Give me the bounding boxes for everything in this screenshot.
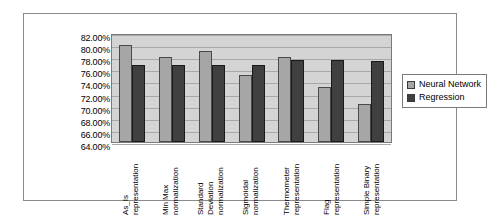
bar-neural-network [159, 57, 172, 142]
legend-label-regression: Regression [419, 93, 465, 102]
bar-regression [172, 65, 185, 143]
y-axis-tick-label: 72.00% [81, 95, 110, 104]
x-axis-label-line: Thermometer [282, 145, 292, 215]
x-axis-label-line: representation [372, 145, 382, 215]
bar-regression [212, 65, 225, 143]
x-axis-label-line: Min Max [161, 145, 171, 215]
y-axis-tick-label: 78.00% [81, 58, 110, 67]
x-axis-tick: Sigmoidalnormalization [231, 145, 271, 217]
bar-groups [112, 35, 391, 142]
chart-legend: Neural Network Regression [402, 74, 487, 108]
x-axis-label-line: Simple Binary [362, 145, 372, 215]
x-axis-label-line: Deviation [206, 145, 216, 215]
bar-regression [331, 60, 344, 142]
bar-group [351, 35, 391, 142]
x-axis-tick-label: Flagrepresentation [322, 145, 342, 215]
bar-neural-network [358, 104, 371, 142]
bar-group [232, 35, 272, 142]
x-axis-tick: As_Isrepresentation [111, 145, 151, 217]
bar-neural-network [199, 51, 212, 142]
legend-item: Regression [407, 91, 481, 104]
x-axis-label-line: Flag [322, 145, 332, 215]
x-axis-tick-label: StandardDeviationnormalization [196, 145, 226, 215]
y-axis-tick-label: 64.00% [81, 143, 110, 152]
x-axis-label-line: normalization [216, 145, 226, 215]
legend-swatch-regression [407, 94, 415, 102]
x-axis-label-line: Standard [196, 145, 206, 215]
x-axis: As_IsrepresentationMin MaxnormalizationS… [111, 145, 392, 217]
x-axis-label-line: representation [292, 145, 302, 215]
x-axis-tick: Simple Binaryrepresentation [352, 145, 392, 217]
bar-group [271, 35, 311, 142]
bar-regression [132, 65, 145, 143]
y-axis-tick-label: 68.00% [81, 119, 110, 128]
bar-regression [371, 61, 384, 142]
legend-item: Neural Network [407, 78, 481, 91]
y-axis-tick-label: 66.00% [81, 131, 110, 140]
legend-label-neural-network: Neural Network [419, 80, 481, 89]
x-axis-tick-label: As_Isrepresentation [121, 145, 141, 215]
x-axis-tick-label: Simple Binaryrepresentation [362, 145, 382, 215]
chart-frame: 82.00%80.00%78.00%76.00%74.00%72.00%70.0… [23, 13, 457, 201]
legend-swatch-neural-network [407, 81, 415, 89]
bar-neural-network [119, 45, 132, 142]
bar-group [152, 35, 192, 142]
bar-neural-network [239, 75, 252, 142]
bar-regression [291, 60, 304, 142]
plot-area [111, 34, 392, 143]
bar-regression [252, 65, 265, 142]
x-axis-tick: Thermometerrepresentation [272, 145, 312, 217]
x-axis-label-line: normalization [171, 145, 181, 215]
bar-group [112, 35, 152, 142]
x-axis-tick-label: Min Maxnormalization [161, 145, 181, 215]
bar-group [311, 35, 351, 142]
x-axis-label-line: As_Is [121, 145, 131, 215]
x-axis-tick-label: Thermometerrepresentation [282, 145, 302, 215]
x-axis-label-line: representation [332, 145, 342, 215]
x-axis-label-line: Sigmoidal [241, 145, 251, 215]
y-axis: 82.00%80.00%78.00%76.00%74.00%72.00%70.0… [52, 28, 110, 149]
bar-neural-network [318, 87, 331, 142]
y-axis-tick-label: 74.00% [81, 82, 110, 91]
bar-neural-network [278, 57, 291, 142]
x-axis-tick: Flagrepresentation [312, 145, 352, 217]
x-axis-tick: Min Maxnormalization [151, 145, 191, 217]
y-axis-tick-label: 76.00% [81, 70, 110, 79]
y-axis-tick-label: 80.00% [81, 46, 110, 55]
y-axis-tick-label: 82.00% [81, 34, 110, 43]
x-axis-label-line: normalization [251, 145, 261, 215]
bar-group [192, 35, 232, 142]
x-axis-tick-label: Sigmoidalnormalization [241, 145, 261, 215]
y-axis-tick-label: 70.00% [81, 107, 110, 116]
x-axis-label-line: representation [131, 145, 141, 215]
x-axis-tick: StandardDeviationnormalization [191, 145, 231, 217]
